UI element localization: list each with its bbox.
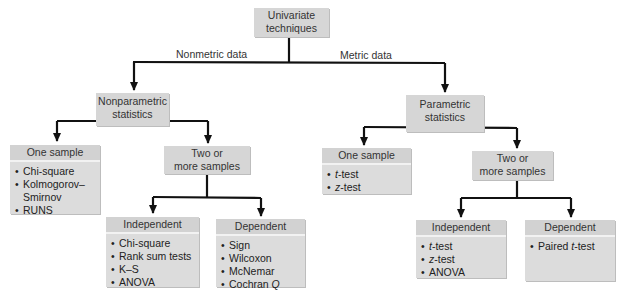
node-title: One sample	[322, 148, 411, 165]
node-title: Independent	[106, 217, 199, 234]
list-item: •RUNS	[15, 204, 100, 217]
bullet-icon: •	[15, 165, 23, 178]
root-line-2: techniques	[254, 22, 329, 35]
node-title: Dependent	[216, 219, 305, 236]
bullet-icon: •	[15, 204, 23, 217]
list-item: •Wilcoxon	[221, 252, 305, 265]
list-item: •K–S	[111, 263, 199, 276]
metric-data-label: Metric data	[340, 49, 392, 61]
nonparametric-two-or-more-samples-node: Two or more samples	[164, 146, 250, 174]
list-item: •McNemar	[221, 265, 305, 278]
parametric-independent-node: Independent •t-test •z-test •ANOVA	[416, 220, 506, 278]
nonmetric-data-label: Nonmetric data	[176, 48, 247, 60]
nonparametric-independent-node: Independent •Chi-square •Rank sum tests …	[106, 217, 199, 287]
root-line-1: Univariate	[254, 9, 329, 22]
list-item: •z-test	[327, 181, 411, 194]
list-item: •Paired t-test	[530, 240, 615, 253]
list-item: •Chi-square	[15, 165, 100, 178]
parametric-dependent-node: Dependent •Paired t-test	[525, 220, 615, 281]
list-item: •t-test	[421, 240, 506, 253]
list-item: •Kolmogorov–	[15, 178, 100, 191]
list-item: •z-test	[421, 253, 506, 266]
list-item: •Cochran Q	[221, 278, 305, 291]
univariate-techniques-node: Univariate techniques	[254, 8, 329, 37]
node-title: Independent	[416, 220, 506, 237]
nonparametric-dependent-node: Dependent •Sign •Wilcoxon •McNemar •Coch…	[216, 219, 305, 287]
node-title: One sample	[10, 145, 100, 162]
nonparametric-one-sample-node: One sample •Chi-square •Kolmogorov– Smir…	[10, 145, 100, 214]
node-title: Dependent	[525, 220, 615, 237]
list-item: •Rank sum tests	[111, 250, 199, 263]
nonparametric-statistics-node: Nonparametric statistics	[96, 93, 169, 126]
list-item: •ANOVA	[421, 266, 506, 279]
bullet-icon: •	[15, 178, 23, 191]
list-item: •Sign	[221, 239, 305, 252]
list-item-continuation: Smirnov	[15, 191, 100, 204]
parametric-two-or-more-samples-node: Two or more samples	[472, 151, 553, 180]
list-item: •Chi-square	[111, 237, 199, 250]
list-item: •ANOVA	[111, 276, 199, 289]
parametric-one-sample-node: One sample •t-test •z-test	[322, 148, 411, 194]
list-item: •t-test	[327, 168, 411, 181]
parametric-statistics-node: Parametric statistics	[406, 95, 484, 132]
nonparametric-line-1: Nonparametric	[96, 95, 169, 108]
nonparametric-line-2: statistics	[96, 108, 169, 121]
